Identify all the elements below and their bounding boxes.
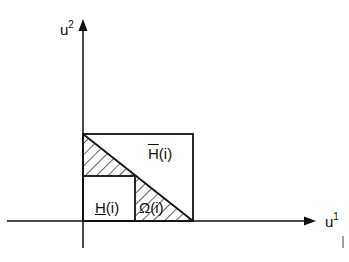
lower-set-symbol: H xyxy=(95,199,106,216)
omega-arg: (i) xyxy=(150,199,163,216)
upper-set-label: H(i) xyxy=(148,146,172,161)
u2-arrowhead-icon xyxy=(79,19,88,31)
omega-symbol: Ω xyxy=(139,199,150,216)
u1-axis-label: u1 xyxy=(325,214,339,229)
u2-axis-label: u2 xyxy=(60,22,74,37)
upper-set-symbol: H xyxy=(148,145,159,162)
u1-arrowhead-icon xyxy=(304,217,316,226)
u2-superscript: 2 xyxy=(68,19,74,30)
upper-set-arg: (i) xyxy=(159,145,172,162)
lower-set-label: H(i) xyxy=(95,200,119,215)
lower-set-arg: (i) xyxy=(106,199,119,216)
diagram-canvas xyxy=(0,0,349,262)
u1-superscript: 1 xyxy=(333,211,339,222)
omega-label: Ω(i) xyxy=(139,200,164,215)
